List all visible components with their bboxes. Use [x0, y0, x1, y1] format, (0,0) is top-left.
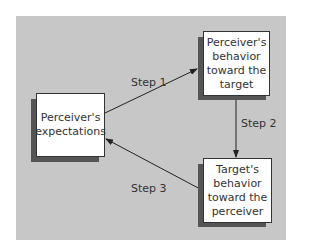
node-label: Target's behavior toward the perceiver: [206, 163, 269, 219]
node-perceiver-behavior: Perceiver's behavior toward the target: [203, 31, 270, 96]
node-target-behavior: Target's behavior toward the perceiver: [203, 158, 272, 223]
step2-label: Step 2: [241, 118, 277, 130]
node-perceiver-expectations: Perceiver's expectations: [36, 93, 105, 157]
node-label: Perceiver's behavior toward the target: [206, 36, 267, 92]
node-label: Perceiver's expectations: [35, 111, 106, 139]
step3-label: Step 3: [131, 183, 167, 195]
step1-label: Step 1: [131, 77, 167, 89]
